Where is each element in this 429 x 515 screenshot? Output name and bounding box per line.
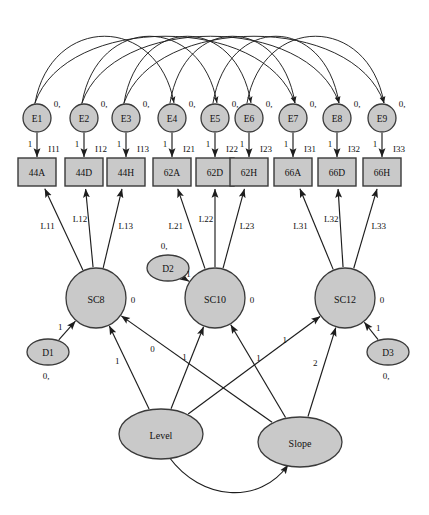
mean-SC12: 0 bbox=[380, 295, 385, 305]
indicator-box-66A[interactable]: 66A bbox=[274, 158, 312, 186]
disturbance-D2[interactable]: D2 bbox=[147, 255, 189, 281]
label-L31: L31 bbox=[293, 221, 308, 231]
indicator-label-66D: 66D bbox=[329, 168, 346, 178]
label-L13: L13 bbox=[118, 221, 133, 231]
error-node-E7[interactable]: E7 bbox=[279, 104, 307, 132]
loading-E1-fixed: 1 bbox=[28, 139, 33, 149]
loading-E4-fixed: 1 bbox=[163, 139, 168, 149]
label-Slope-SC8: 0 bbox=[150, 344, 155, 354]
label-Level-SC10: 1 bbox=[182, 352, 187, 362]
intercept-I13: I13 bbox=[137, 144, 149, 154]
latent-state-SC12[interactable]: SC12 bbox=[315, 268, 375, 328]
growth-factor-Slope[interactable]: Slope bbox=[258, 417, 342, 467]
latent-state-SC10[interactable]: SC10 bbox=[185, 268, 245, 328]
sem-path-diagram: 44A44D44H62A62D62H66A66D66HE1E2E3E4E5E6E… bbox=[0, 0, 429, 515]
indicator-label-62D: 62D bbox=[207, 168, 224, 178]
mean-D3: 0, bbox=[383, 371, 390, 381]
mean-D2: 0, bbox=[161, 241, 168, 251]
error-node-E9[interactable]: E9 bbox=[368, 104, 396, 132]
growth-factor-label-Level: Level bbox=[150, 430, 173, 441]
indicator-box-66D[interactable]: 66D bbox=[318, 158, 356, 186]
growth-factor-label-Slope: Slope bbox=[289, 438, 312, 449]
mean-SC8: 0 bbox=[131, 295, 136, 305]
label-Slope-SC12: 2 bbox=[313, 358, 318, 368]
error-node-E1[interactable]: E1 bbox=[23, 104, 51, 132]
disturbance-label-D1: D1 bbox=[42, 348, 54, 358]
mean-E9: 0, bbox=[399, 99, 406, 109]
intercept-I21: I21 bbox=[183, 144, 195, 154]
error-label-E9: E9 bbox=[377, 114, 388, 124]
disturbance-D3[interactable]: D3 bbox=[367, 339, 409, 365]
error-node-E8[interactable]: E8 bbox=[323, 104, 351, 132]
latent-state-label-SC8: SC8 bbox=[87, 294, 104, 305]
label-L22: L22 bbox=[199, 214, 214, 224]
loading-E3-fixed: 1 bbox=[117, 139, 122, 149]
label-Level-SC8: 1 bbox=[115, 356, 120, 366]
mean-E7: 0, bbox=[310, 99, 317, 109]
loading-E9-fixed: 1 bbox=[373, 139, 378, 149]
intercept-I23: I23 bbox=[260, 144, 272, 154]
edge-Slope-to-SC10 bbox=[231, 325, 286, 418]
indicator-label-44A: 44A bbox=[29, 168, 46, 178]
intercept-I11: I11 bbox=[48, 144, 60, 154]
loading-E2-fixed: 1 bbox=[75, 139, 80, 149]
error-correlation-E5-E8 bbox=[213, 36, 339, 103]
error-label-E8: E8 bbox=[332, 114, 343, 124]
indicator-box-62H[interactable]: 62H bbox=[230, 158, 268, 186]
label-Slope-SC10: 1 bbox=[256, 353, 261, 363]
indicator-box-62D[interactable]: 62D bbox=[196, 158, 234, 186]
latent-state-label-SC12: SC12 bbox=[334, 294, 356, 305]
intercept-I12: I12 bbox=[95, 144, 107, 154]
edge-Level-to-SC8 bbox=[109, 326, 149, 409]
error-node-E3[interactable]: E3 bbox=[112, 104, 140, 132]
error-node-E5[interactable]: E5 bbox=[201, 104, 229, 132]
mean-E6: 0, bbox=[266, 99, 273, 109]
error-correlation-E3-E9 bbox=[124, 36, 384, 103]
label-Level-SC12: 1 bbox=[282, 335, 287, 345]
error-label-E5: E5 bbox=[210, 114, 221, 124]
intercept-I22: I22 bbox=[226, 144, 238, 154]
error-node-E2[interactable]: E2 bbox=[70, 104, 98, 132]
disturbance-D1[interactable]: D1 bbox=[27, 339, 69, 365]
loading-SC8-to-I12 bbox=[86, 189, 93, 267]
error-node-E4[interactable]: E4 bbox=[158, 104, 186, 132]
error-correlation-E2-E5 bbox=[82, 36, 217, 103]
mean-E5: 0, bbox=[232, 99, 239, 109]
intercept-I31: I31 bbox=[304, 144, 316, 154]
growth-factor-Level[interactable]: Level bbox=[119, 409, 203, 459]
indicator-box-44H[interactable]: 44H bbox=[107, 158, 145, 186]
label-D3-SC12: 1 bbox=[376, 323, 381, 333]
indicator-label-66A: 66A bbox=[285, 168, 302, 178]
latent-state-SC8[interactable]: SC8 bbox=[66, 268, 126, 328]
label-L33: L33 bbox=[372, 221, 387, 231]
label-L12: L12 bbox=[73, 214, 88, 224]
disturbance-label-D2: D2 bbox=[162, 264, 174, 274]
error-label-E3: E3 bbox=[121, 114, 132, 124]
indicator-box-44D[interactable]: 44D bbox=[65, 158, 103, 186]
mean-E4: 0, bbox=[189, 99, 196, 109]
mean-E3: 0, bbox=[143, 99, 150, 109]
error-correlation-E3-E6 bbox=[124, 36, 251, 103]
indicator-label-62H: 62H bbox=[241, 168, 258, 178]
error-correlation-arcs bbox=[35, 36, 384, 103]
edge-Slope-to-SC12 bbox=[308, 328, 336, 417]
error-label-E4: E4 bbox=[167, 114, 178, 124]
indicator-label-62A: 62A bbox=[164, 168, 181, 178]
intercept-I32: I32 bbox=[348, 144, 360, 154]
mean-SC10: 0 bbox=[250, 295, 255, 305]
error-correlation-E1-E7 bbox=[35, 36, 295, 103]
indicator-box-44A[interactable]: 44A bbox=[18, 158, 56, 186]
indicator-label-44D: 44D bbox=[76, 168, 93, 178]
indicator-box-66H[interactable]: 66H bbox=[363, 158, 401, 186]
loading-E6-fixed: 1 bbox=[240, 139, 245, 149]
loading-E5-fixed: 1 bbox=[206, 139, 211, 149]
indicator-label-66H: 66H bbox=[374, 168, 391, 178]
label-D2-SC10: 1 bbox=[186, 269, 191, 279]
error-label-E2: E2 bbox=[79, 114, 90, 124]
loading-SC12-to-I32 bbox=[338, 189, 343, 267]
diagram-canvas: 44A44D44H62A62D62H66A66D66HE1E2E3E4E5E6E… bbox=[0, 0, 429, 515]
error-node-E6[interactable]: E6 bbox=[235, 104, 263, 132]
indicator-box-62A[interactable]: 62A bbox=[153, 158, 191, 186]
label-L23: L23 bbox=[240, 221, 255, 231]
nodes: 44A44D44H62A62D62H66A66D66HE1E2E3E4E5E6E… bbox=[18, 104, 409, 467]
